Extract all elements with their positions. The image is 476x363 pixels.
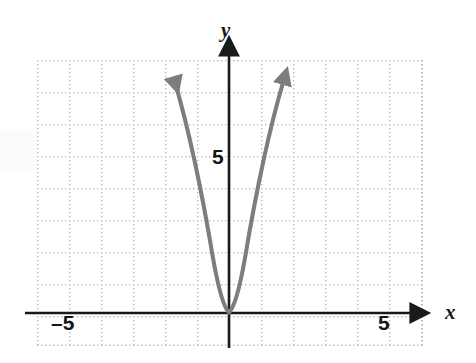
x-tick-label-negative-5: –5 <box>51 312 74 333</box>
y-axis-label: y <box>221 20 230 41</box>
x-axis-label: x <box>445 302 456 323</box>
cartesian-plot <box>0 0 476 363</box>
graph-figure: y x 5 5 –5 · · · · · <box>0 0 476 363</box>
y-tick-label-5: 5 <box>212 146 224 167</box>
x-tick-label-5: 5 <box>378 312 390 333</box>
scan-artifact-text: · · · · · <box>360 30 402 44</box>
